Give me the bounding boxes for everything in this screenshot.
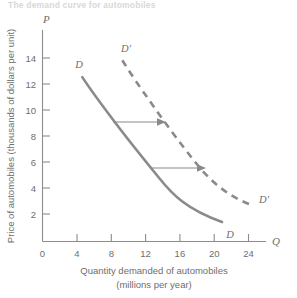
shift-arrow-upper bbox=[113, 118, 166, 126]
y-axis-ticks bbox=[43, 58, 51, 214]
y-axis-tick-labels: 14 12 10 8 6 4 2 bbox=[25, 53, 36, 220]
x-axis-symbol: Q bbox=[272, 235, 280, 247]
demand-curve-figure: The demand curve for automobiles P Q 14 … bbox=[0, 0, 297, 298]
demand-curve-d bbox=[82, 77, 222, 222]
y-axis-symbol: P bbox=[42, 13, 50, 25]
y-ticklabel-8: 8 bbox=[31, 131, 36, 142]
figure-caption: The demand curve for automobiles bbox=[8, 0, 289, 11]
shift-arrow-lower bbox=[150, 164, 206, 172]
y-ticklabel-14: 14 bbox=[25, 53, 36, 64]
y-ticklabel-10: 10 bbox=[25, 105, 36, 116]
x-ticklabel-20: 20 bbox=[209, 248, 220, 259]
x-axis-tick-labels: 0 4 8 12 16 20 24 bbox=[40, 248, 254, 259]
demand-curve-d-prime bbox=[122, 60, 249, 204]
x-axis-ticks bbox=[77, 234, 249, 242]
curve-label-d-prime-start: D′ bbox=[120, 43, 132, 54]
x-ticklabel-16: 16 bbox=[175, 248, 186, 259]
x-ticklabel-24: 24 bbox=[243, 248, 254, 259]
curve-label-d-start: D bbox=[74, 59, 83, 70]
x-ticklabel-0: 0 bbox=[40, 248, 45, 259]
x-ticklabel-12: 12 bbox=[140, 248, 151, 259]
x-ticklabel-4: 4 bbox=[74, 248, 79, 259]
curve-label-d-end: D bbox=[225, 229, 234, 240]
y-axis-title: Price of automobiles (thousands of dolla… bbox=[5, 29, 16, 243]
y-ticklabel-2: 2 bbox=[31, 209, 36, 220]
y-ticklabel-6: 6 bbox=[31, 157, 36, 168]
curve-label-d-prime-end: D′ bbox=[258, 194, 270, 205]
x-axis-title-line2: (millions per year) bbox=[116, 279, 192, 290]
x-ticklabel-8: 8 bbox=[109, 248, 114, 259]
y-ticklabel-12: 12 bbox=[25, 79, 36, 90]
x-axis-title-line1: Quantity demanded of automobiles bbox=[80, 265, 228, 276]
chart-svg: P Q 14 12 10 8 6 4 2 bbox=[0, 0, 297, 298]
y-ticklabel-4: 4 bbox=[31, 183, 36, 194]
